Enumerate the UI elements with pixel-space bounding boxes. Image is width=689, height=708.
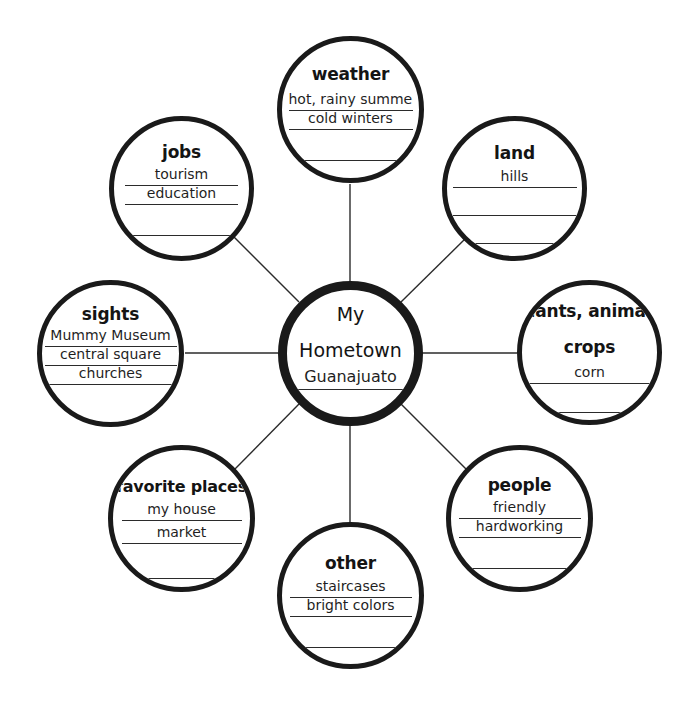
center-entries: Guanajuato: [287, 368, 414, 390]
node-jobs-entries: tourism education: [114, 167, 249, 236]
entry-field[interactable]: friendly: [459, 500, 581, 519]
node-plants-animals-crops-entries: corn: [522, 365, 657, 423]
center-title-line1: My: [337, 303, 365, 326]
node-people[interactable]: people friendly hardworking: [446, 445, 593, 592]
entry-field[interactable]: [125, 217, 238, 236]
entry-field[interactable]: education: [125, 186, 238, 205]
spoke-center-land: [401, 239, 465, 302]
entry-field[interactable]: [122, 560, 242, 579]
entry-field[interactable]: bright colors: [290, 598, 412, 617]
spoke-center-jobs: [233, 236, 299, 302]
entry-field[interactable]: Mummy Museum: [45, 328, 177, 347]
entry-field[interactable]: staircases: [290, 579, 412, 598]
entry-field[interactable]: [453, 197, 577, 216]
entry-field[interactable]: [529, 394, 651, 413]
node-other[interactable]: other staircases bright colors: [277, 522, 424, 669]
node-weather-title: weather: [312, 65, 389, 84]
entry-field[interactable]: [290, 629, 412, 648]
node-plants-animals-crops-title-line2: crops: [564, 338, 615, 357]
node-people-title: people: [488, 476, 552, 495]
node-people-entries: friendly hardworking: [451, 500, 588, 569]
entry-field[interactable]: hot, rainy summer: [289, 92, 413, 111]
node-land-entries: hills: [447, 169, 582, 253]
entry-field[interactable]: [459, 550, 581, 569]
spoke-center-people: [401, 404, 468, 471]
node-weather-entries: hot, rainy summer cold winters: [282, 92, 419, 161]
node-land[interactable]: land hills: [442, 116, 587, 261]
node-plants-animals-crops-title: plants, animals: [518, 302, 662, 321]
entry-field[interactable]: my house: [122, 502, 242, 521]
node-sights-title: sights: [82, 305, 139, 324]
entry-field[interactable]: central square: [45, 347, 177, 366]
entry-field[interactable]: tourism: [125, 167, 238, 186]
diagram-canvas: weather hot, rainy summer cold winters j…: [0, 0, 689, 708]
entry-field[interactable]: corn: [529, 365, 651, 384]
node-land-title: land: [494, 144, 535, 163]
entry-field[interactable]: hardworking: [459, 519, 581, 538]
node-weather[interactable]: weather hot, rainy summer cold winters: [277, 36, 424, 183]
entry-field[interactable]: [289, 142, 413, 161]
center-title-line2: Hometown: [299, 339, 402, 362]
spoke-center-favorite-places: [234, 404, 299, 470]
entry-field[interactable]: [453, 225, 577, 244]
entry-field[interactable]: cold winters: [289, 111, 413, 130]
node-other-entries: staircases bright colors: [282, 579, 419, 648]
node-favorite-places-entries: my house market: [113, 502, 250, 583]
node-jobs[interactable]: jobs tourism education: [109, 116, 254, 261]
node-sights[interactable]: sights Mummy Museum central square churc…: [37, 280, 184, 427]
entry-field[interactable]: market: [122, 525, 242, 544]
node-center-my-hometown[interactable]: My Hometown Guanajuato: [278, 281, 423, 426]
node-jobs-title: jobs: [162, 143, 201, 162]
entry-field[interactable]: Guanajuato: [292, 368, 410, 390]
entry-field[interactable]: hills: [453, 169, 577, 188]
node-sights-entries: Mummy Museum central square churches: [42, 328, 179, 385]
node-favorite-places[interactable]: favorite places my house market: [108, 445, 255, 592]
node-plants-animals-crops[interactable]: plants, animals crops corn: [517, 280, 662, 425]
node-other-title: other: [325, 554, 376, 573]
entry-field[interactable]: churches: [45, 366, 177, 385]
node-favorite-places-title: favorite places: [116, 478, 247, 496]
